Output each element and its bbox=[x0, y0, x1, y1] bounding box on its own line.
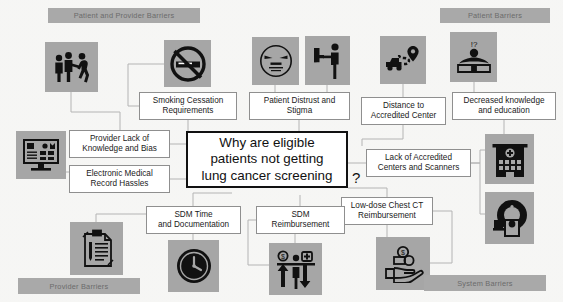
diagram-canvas: !? bbox=[0, 0, 563, 302]
node-distance-to-accredited-center[interactable]: Distance to Accredited Center bbox=[361, 97, 446, 125]
central-question-box: Why are eligible patients not getting lu… bbox=[186, 131, 348, 188]
hospital-building-icon bbox=[485, 134, 534, 184]
ct-scanner-icon bbox=[485, 192, 534, 244]
node-provider-lack-of-knowledge-and-bias[interactable]: Provider Lack of Knowledge and Bias bbox=[69, 130, 170, 158]
cost-scale-person-icon: $ bbox=[269, 243, 322, 295]
svg-text:!?: !? bbox=[470, 40, 477, 49]
node-smoking-cessation-requirements[interactable]: Smoking Cessation Requirements bbox=[139, 92, 237, 120]
banner-patient-and-provider-barriers: Patient and Provider Barriers bbox=[48, 8, 200, 23]
node-lack-of-accredited-centers-and-scanners[interactable]: Lack of Accredited Centers and Scanners bbox=[366, 149, 471, 177]
banner-system-barriers: System Barriers bbox=[424, 275, 546, 291]
hand-holding-coins-icon: $ bbox=[376, 237, 430, 290]
question-mark: ? bbox=[352, 170, 360, 185]
node-patient-distrust-and-stigma[interactable]: Patient Distrust and Stigma bbox=[249, 92, 350, 120]
people-smoking-icon bbox=[45, 42, 98, 92]
person-pointing-icon bbox=[305, 36, 350, 85]
node-low-dose-chest-ct-reimbursement[interactable]: Low-dose Chest CT Reimbursement bbox=[341, 197, 433, 225]
clipboard-pen-icon bbox=[70, 222, 123, 275]
node-decreased-knowledge-and-education[interactable]: Decreased knowledge and education bbox=[452, 92, 556, 120]
car-route-pin-icon bbox=[380, 36, 426, 84]
node-sdm-reimbursement[interactable]: SDM Reimbursement bbox=[256, 206, 345, 234]
banner-patient-barriers: Patient Barriers bbox=[440, 8, 550, 23]
node-sdm-time-and-documentation[interactable]: SDM Time and Documentation bbox=[146, 206, 241, 234]
no-smoking-icon bbox=[164, 40, 211, 87]
node-electronic-medical-record-hassles[interactable]: Electronic Medical Record Hassles bbox=[69, 165, 170, 193]
svg-text:$: $ bbox=[281, 253, 285, 260]
svg-text:$: $ bbox=[401, 249, 405, 256]
clock-icon bbox=[168, 240, 219, 292]
person-book-question-icon: !? bbox=[450, 32, 497, 82]
banner-provider-barriers: Provider Barriers bbox=[18, 278, 140, 294]
desktop-monitor-icon bbox=[16, 131, 66, 179]
skeptical-face-icon bbox=[252, 37, 299, 85]
